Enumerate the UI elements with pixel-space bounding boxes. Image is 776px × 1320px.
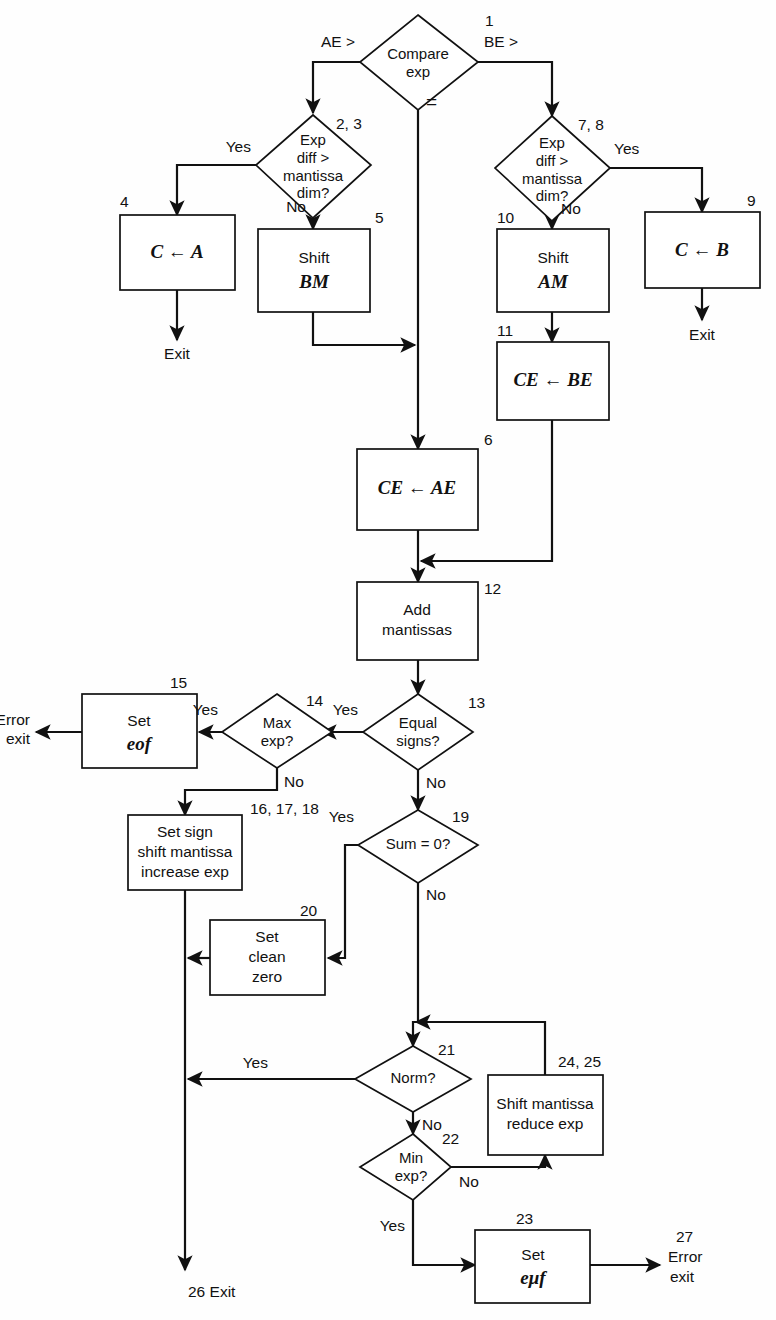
node-set-clean-zero[interactable]: Set clean zero 20	[210, 902, 325, 995]
terminal-error-exit-27-line2: exit	[670, 1268, 695, 1285]
node-10-line2: AM	[537, 271, 569, 292]
node-equal-signs[interactable]: Equal signs? 13	[363, 694, 485, 770]
edge-label-no-14: No	[284, 773, 304, 790]
node-161718-line1: Set sign	[157, 823, 213, 840]
terminal-exit-right: Exit	[689, 326, 716, 343]
node-14-line2: exp?	[261, 732, 294, 749]
edge-label-yes-14: Yes	[193, 701, 219, 718]
node-78-line2: diff >	[536, 152, 569, 169]
node-2425-number: 24, 25	[558, 1053, 601, 1070]
node-4-number: 4	[120, 193, 129, 210]
node-19-line1: Sum = 0?	[386, 835, 451, 852]
node-21-line1: Norm?	[390, 1069, 435, 1086]
node-6-line1: CE ← AE	[378, 477, 457, 498]
node-add-mantissas[interactable]: Add mantissas 12	[357, 580, 501, 660]
node-15-number: 15	[170, 674, 187, 691]
terminal-error-exit-27-line1: Error	[668, 1248, 702, 1265]
edge-23-yes-to-4	[177, 165, 256, 215]
node-set-sign-shift-mantissa-increase-exp[interactable]: Set sign shift mantissa increase exp 16,…	[128, 800, 319, 890]
node-5-line2: BM	[298, 271, 330, 292]
edge-label-no-19: No	[426, 886, 446, 903]
node-23-line2: diff >	[297, 149, 330, 166]
flowchart-canvas: Compare exp 1 Exp diff > mantissa dim? 2…	[0, 0, 776, 1320]
node-19-number: 19	[452, 808, 469, 825]
node-23b-line1: Set	[521, 1246, 545, 1263]
node-161718-line2: shift mantissa	[138, 843, 233, 860]
node-14-number: 14	[306, 692, 324, 709]
node-161718-number: 16, 17, 18	[250, 800, 319, 817]
node-4-line1: C ← A	[150, 241, 203, 262]
node-23-line3: mantissa	[283, 167, 344, 184]
node-1-line2: exp	[406, 63, 430, 80]
node-9-number: 9	[747, 192, 756, 209]
node-sum-equals-zero[interactable]: Sum = 0? 19	[358, 808, 478, 883]
node-exp-diff-mantissa-dim-left[interactable]: Exp diff > mantissa dim? 2, 3	[256, 115, 371, 218]
node-161718-line3: increase exp	[141, 863, 229, 880]
node-2425-line1: Shift mantissa	[496, 1095, 594, 1112]
node-15-line1: Set	[127, 712, 151, 729]
node-5-number: 5	[375, 209, 384, 226]
node-78-line3: mantissa	[522, 170, 583, 187]
node-23b-line2: eμf	[520, 1267, 547, 1288]
edge-label-no-23: No	[286, 198, 306, 215]
node-1-number: 1	[485, 12, 494, 29]
terminal-error-exit-line2: exit	[6, 730, 31, 747]
node-shift-bm[interactable]: Shift BM 5	[258, 209, 384, 312]
edge-78-yes-to-9	[610, 168, 702, 212]
node-21-number: 21	[438, 1041, 455, 1058]
edge-label-no-22: No	[459, 1173, 479, 1190]
node-20-line1: Set	[255, 928, 279, 945]
terminal-error-exit-line1: Error	[0, 711, 30, 728]
edge-label-yes-23: Yes	[226, 138, 252, 155]
node-norm[interactable]: Norm? 21	[355, 1041, 471, 1112]
edge-label-no-78: No	[561, 200, 581, 217]
node-20-number: 20	[300, 902, 318, 919]
edge-1-to-23	[313, 62, 360, 113]
terminal-exit-26: 26 Exit	[188, 1283, 236, 1300]
node-11-number: 11	[497, 322, 513, 339]
node-22-line2: exp?	[395, 1167, 428, 1184]
edge-label-yes-78: Yes	[614, 140, 640, 157]
edge-22-no-to-2425	[451, 1155, 545, 1167]
node-5-line1: Shift	[298, 249, 330, 266]
edge-19-yes-to-20	[328, 845, 379, 958]
edge-1-to-78	[478, 62, 552, 116]
node-23b-number: 23	[516, 1210, 533, 1227]
edge-22-yes-to-23	[413, 1200, 475, 1265]
node-22-number: 22	[442, 1130, 459, 1147]
node-9-line1: C ← B	[675, 239, 729, 260]
node-12-number: 12	[484, 580, 501, 597]
edge-label-no-13: No	[426, 774, 446, 791]
flowchart-diagram: Compare exp 1 Exp diff > mantissa dim? 2…	[0, 0, 776, 1320]
node-set-euf[interactable]: Set eμf 23	[475, 1210, 590, 1303]
edge-label-yes-21: Yes	[243, 1054, 269, 1071]
node-78-number: 7, 8	[578, 116, 604, 133]
edge-label-ae-greater: AE >	[321, 33, 355, 50]
node-23-line1: Exp	[300, 131, 326, 148]
edge-label-no-21: No	[422, 1116, 442, 1133]
edge-label-be-greater: BE >	[484, 33, 518, 50]
node-exp-diff-mantissa-dim-right[interactable]: Exp diff > mantissa dim? 7, 8	[495, 116, 610, 221]
node-12-line1: Add	[403, 601, 431, 618]
node-max-exp[interactable]: Max exp? 14	[222, 692, 332, 768]
terminal-error-exit-27-number: 27	[676, 1228, 693, 1245]
terminal-exit-left: Exit	[164, 345, 191, 362]
node-set-eof[interactable]: Set eof 15	[82, 674, 197, 768]
node-13-line2: signs?	[396, 732, 439, 749]
node-11-line1: CE ← BE	[513, 369, 592, 390]
node-1-line1: Compare	[387, 45, 449, 62]
edge-label-equal: =	[426, 91, 437, 112]
node-13-line1: Equal	[399, 714, 437, 731]
node-ce-gets-ae[interactable]: CE ← AE 6	[357, 431, 493, 530]
node-10-number: 10	[497, 209, 515, 226]
node-min-exp[interactable]: Min exp? 22	[360, 1130, 459, 1200]
node-22-line1: Min	[399, 1149, 423, 1166]
node-23-number: 2, 3	[336, 115, 362, 132]
node-20-line3: zero	[252, 968, 282, 985]
edge-5-to-main	[313, 312, 415, 345]
node-12-line2: mantissas	[382, 621, 452, 638]
edge-label-yes-22: Yes	[380, 1217, 406, 1234]
node-14-line1: Max	[263, 714, 292, 731]
edge-label-yes-13: Yes	[333, 701, 359, 718]
edge-label-yes-19: Yes	[329, 808, 355, 825]
